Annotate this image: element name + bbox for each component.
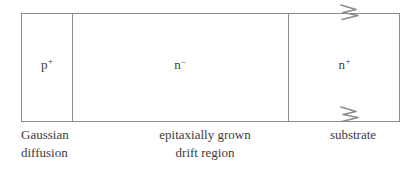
caption-p-plus-line2: diffusion [21, 144, 117, 162]
region-label-n-minus-superscript: – [181, 56, 186, 66]
device-cross-section-diagram: p+ n– n+ Gaussian diffusion epitaxially … [0, 0, 419, 171]
caption-n-plus-line2: substrate [293, 126, 413, 144]
caption-n-minus-region: epitaxially grown drift region [117, 126, 293, 162]
caption-row: Gaussian diffusion epitaxially grown dri… [0, 126, 419, 171]
region-label-n-minus: n– [72, 58, 288, 71]
region-label-n-minus-base: n [174, 57, 181, 72]
region-label-p-plus-superscript: + [47, 56, 53, 66]
region-label-n-plus-base: n [338, 57, 345, 72]
caption-n-minus-line2: drift region [117, 144, 293, 162]
region-label-p-plus: p+ [22, 58, 72, 71]
region-label-n-plus-superscript: + [345, 56, 351, 66]
caption-p-plus-line1: Gaussian [21, 126, 117, 144]
caption-n-plus-region: substrate [293, 126, 413, 144]
device-box: p+ n– n+ [21, 13, 400, 122]
caption-n-minus-line1: epitaxially grown [117, 126, 293, 144]
caption-p-plus-region: Gaussian diffusion [21, 126, 117, 162]
region-label-n-plus: n+ [288, 58, 401, 71]
